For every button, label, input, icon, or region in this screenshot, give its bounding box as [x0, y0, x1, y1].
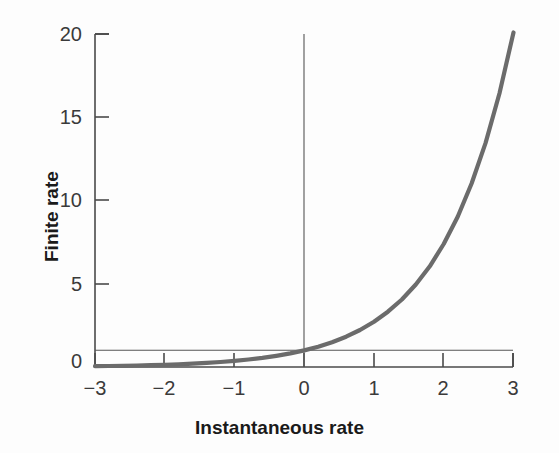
x-tick-label-0: 0 — [298, 378, 309, 398]
y-tick-label-5: 5 — [48, 274, 82, 294]
y-tick-label-15: 15 — [48, 107, 82, 127]
x-tick-label-minus3: −3 — [84, 378, 107, 398]
y-tick-label-20: 20 — [48, 24, 82, 44]
y-tick-marks — [95, 34, 109, 367]
y-tick-label-0: 0 — [48, 351, 82, 371]
x-axis-title: Instantaneous rate — [0, 418, 559, 437]
x-tick-label-2: 2 — [437, 378, 448, 398]
x-tick-label-minus1: −1 — [223, 378, 246, 398]
x-tick-label-1: 1 — [368, 378, 379, 398]
chart-figure: 20 15 10 5 0 −3 −2 −1 0 1 2 3 Instantane… — [0, 0, 559, 453]
x-tick-label-3: 3 — [507, 378, 518, 398]
x-tick-label-minus2: −2 — [153, 378, 176, 398]
y-axis-title: Finite rate — [42, 171, 61, 262]
